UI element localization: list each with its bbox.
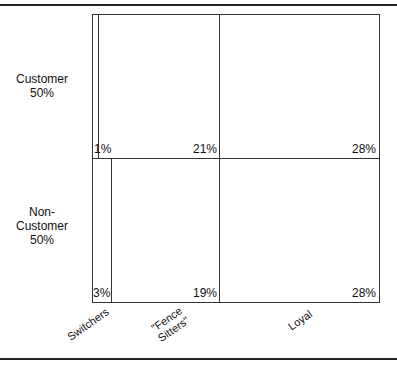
cell-customer-switchers: 1%	[94, 142, 111, 156]
col-label-switchers: Switchers	[60, 302, 116, 346]
cell-noncustomer-fence: 19%	[193, 286, 217, 300]
divider-switch-fence-noncustomer	[111, 158, 112, 303]
row-label-customer-text: Customer	[2, 72, 82, 86]
col-label-loyal: Loyal	[276, 301, 324, 340]
row-label-customer-share: 50%	[2, 86, 82, 100]
cell-customer-loyal: 28%	[352, 142, 376, 156]
cell-noncustomer-loyal: 28%	[352, 286, 376, 300]
cell-customer-fence: 21%	[193, 142, 217, 156]
row-divider	[92, 158, 380, 159]
row-label-noncustomer-text1: Non-	[2, 205, 82, 219]
box-bottom	[92, 302, 380, 303]
bottom-rule	[0, 358, 397, 360]
row-label-customer: Customer 50%	[2, 72, 82, 100]
row-label-noncustomer-share: 50%	[2, 233, 82, 247]
top-rule	[0, 4, 397, 6]
divider-fence-loyal	[219, 14, 220, 303]
col-label-fence-sitters: "Fence Sitters"	[139, 297, 202, 351]
row-label-noncustomer-text2: Customer	[2, 219, 82, 233]
row-label-noncustomer: Non- Customer 50%	[2, 205, 82, 247]
divider-switch-fence-customer	[98, 14, 99, 158]
cell-noncustomer-switchers: 3%	[93, 286, 110, 300]
box-top	[92, 14, 380, 15]
